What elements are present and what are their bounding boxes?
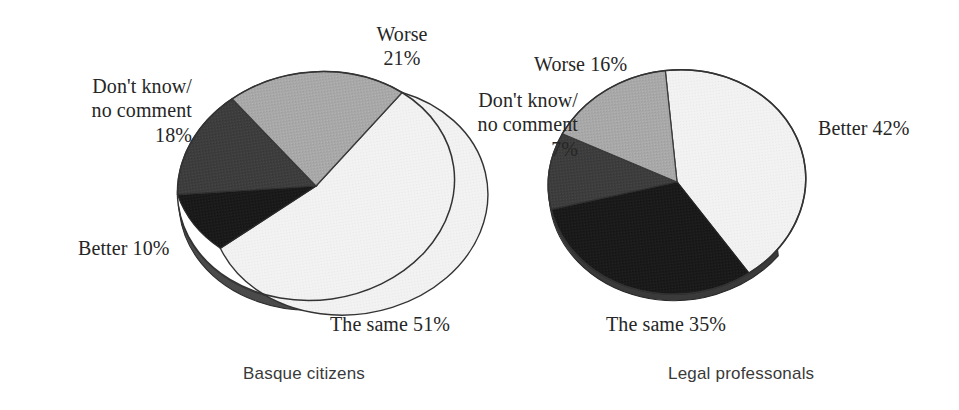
pie-charts-canvas: [0, 0, 959, 410]
left-label-dont-know: Don't know/ no comment 18%: [22, 74, 192, 147]
right-label-the-same: The same 35%: [606, 312, 776, 336]
right-label-better: Better 42%: [818, 116, 958, 140]
pie-chart-figure: Worse 21% Don't know/ no comment 18% Bet…: [0, 0, 959, 410]
pie-right: [537, 57, 818, 313]
right-label-dont-know: Don't know/ no comment 7%: [418, 88, 578, 161]
right-label-worse: Worse 16%: [534, 52, 664, 76]
left-chart-caption: Basque citizens: [243, 364, 423, 384]
left-label-worse: Worse 21%: [350, 22, 454, 71]
left-label-the-same: The same 51%: [330, 312, 500, 336]
left-label-better: Better 10%: [78, 236, 218, 260]
right-chart-caption: Legal professonals: [668, 364, 868, 384]
